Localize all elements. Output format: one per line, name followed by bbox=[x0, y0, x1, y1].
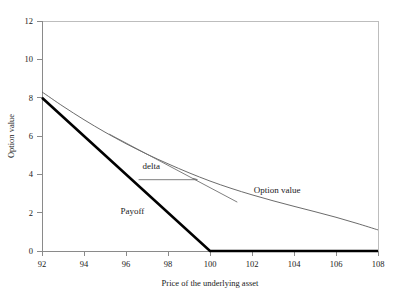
y-tick-label-4: 4 bbox=[29, 169, 34, 179]
x-tick-label-108: 108 bbox=[372, 259, 385, 269]
x-tick-label-92: 92 bbox=[38, 259, 47, 269]
x-tick-label-96: 96 bbox=[122, 259, 131, 269]
delta-tangent-line bbox=[109, 134, 237, 202]
x-tick-label-104: 104 bbox=[288, 259, 302, 269]
y-tick-label-0: 0 bbox=[29, 246, 33, 256]
y-axis-ticks bbox=[37, 21, 42, 251]
y-tick-label-8: 8 bbox=[29, 93, 33, 103]
y-tick-label-2: 2 bbox=[29, 208, 33, 218]
series-line-payoff bbox=[42, 98, 378, 251]
x-tick-label-102: 102 bbox=[246, 259, 259, 269]
plot-frame bbox=[42, 21, 378, 251]
delta-label: delta bbox=[142, 161, 160, 171]
x-axis-tick-labels: 92 94 96 98 100 102 104 106 108 bbox=[38, 259, 385, 269]
option-value-chart-figure: 0 2 4 6 8 10 12 92 94 96 98 100 102 bbox=[0, 0, 398, 302]
option-value-series-label: Option value bbox=[254, 185, 301, 195]
x-tick-label-94: 94 bbox=[80, 259, 89, 269]
y-tick-label-12: 12 bbox=[25, 16, 34, 26]
x-tick-label-100: 100 bbox=[204, 259, 217, 269]
y-tick-label-10: 10 bbox=[25, 54, 34, 64]
y-axis-title: Option value bbox=[6, 114, 16, 158]
series-line-option-value bbox=[42, 92, 378, 230]
delta-annotation: delta bbox=[109, 134, 237, 202]
y-axis-tick-labels: 0 2 4 6 8 10 12 bbox=[25, 16, 34, 256]
chart-canvas: 0 2 4 6 8 10 12 92 94 96 98 100 102 bbox=[0, 0, 398, 302]
x-axis-title: Price of the underlying asset bbox=[162, 278, 259, 288]
x-tick-label-98: 98 bbox=[164, 259, 173, 269]
x-tick-label-106: 106 bbox=[330, 259, 343, 269]
payoff-series-label: Payoff bbox=[120, 206, 144, 216]
y-tick-label-6: 6 bbox=[29, 131, 33, 141]
